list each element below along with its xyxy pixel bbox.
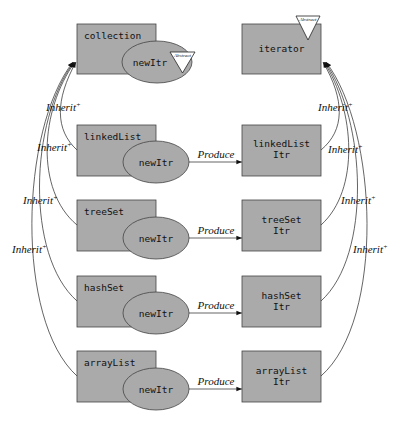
class-linkedListItr: linkedList Itr: [242, 125, 321, 176]
inherit-label: Inherit+: [327, 143, 363, 155]
produce-label: Produce: [197, 375, 235, 387]
inherit-label: Inherit+: [340, 194, 376, 206]
class-collection: collection newItr Abstract: [77, 24, 195, 83]
class-name-line1: hashSet: [261, 290, 301, 301]
class-name-line1: linkedList: [253, 138, 310, 149]
produce-edges: Produce Produce Produce Produce: [189, 148, 242, 389]
produce-label: Produce: [197, 148, 235, 160]
inherit-label: Inherit+: [36, 141, 72, 153]
inherit-edge-hashSet: [39, 62, 77, 301]
class-name: collection: [84, 30, 141, 41]
method-name: newItr: [139, 157, 174, 168]
class-arrayListItr: arrayList Itr: [242, 351, 321, 402]
class-treeSet: treeSet newItr: [77, 200, 189, 259]
class-diagram: Inherit+ Inherit+ Inherit+ Inherit+ Inhe…: [0, 0, 400, 421]
class-name: treeSet: [84, 206, 124, 217]
class-hashSetItr: hashSet Itr: [242, 276, 321, 327]
class-name-line2: Itr: [273, 376, 290, 387]
class-treeSetItr: treeSet Itr: [242, 200, 321, 251]
method-name: newItr: [139, 233, 174, 244]
class-name: hashSet: [84, 282, 124, 293]
class-name-line1: treeSet: [261, 214, 301, 225]
class-arrayList: arrayList newItr: [77, 351, 189, 410]
class-iterator: iterator Abstract: [242, 16, 321, 74]
class-hashSet: hashSet newItr: [77, 276, 189, 334]
inherit-label: Inherit+: [11, 243, 47, 255]
class-name-line1: arrayList: [256, 365, 307, 376]
class-name-line2: Itr: [273, 225, 290, 236]
inherit-edge-hashSetItr: [321, 62, 358, 301]
produce-label: Produce: [197, 224, 235, 236]
inherit-label: Inherit+: [45, 101, 81, 113]
class-name: iterator: [259, 43, 305, 54]
inherit-label: Inherit+: [22, 194, 58, 206]
class-name: arrayList: [84, 357, 135, 368]
class-name-line2: Itr: [273, 301, 290, 312]
class-name-line2: Itr: [273, 149, 290, 160]
svg-text:Abstract: Abstract: [299, 17, 318, 22]
svg-text:Abstract: Abstract: [173, 53, 192, 58]
inherit-label: Inherit+: [317, 101, 353, 113]
method-name: newItr: [133, 57, 168, 68]
class-linkedList: linkedList newItr: [77, 125, 189, 183]
class-name: linkedList: [84, 131, 141, 142]
produce-label: Produce: [197, 299, 235, 311]
method-name: newItr: [139, 384, 174, 395]
inherit-label: Inherit+: [352, 243, 388, 255]
method-name: newItr: [139, 308, 174, 319]
